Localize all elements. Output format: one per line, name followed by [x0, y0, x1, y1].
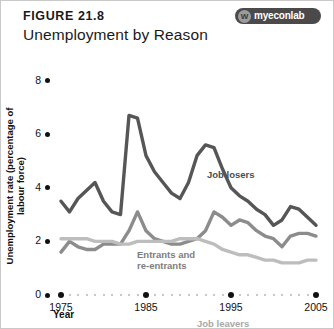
- myeconlab-badge-label: myeconlab: [254, 11, 304, 21]
- series-line-entrants-and-re-entrants: [61, 212, 316, 252]
- series-label-line: re-entrants: [137, 260, 195, 271]
- series-line-job-losers: [61, 115, 316, 225]
- series-label-job-leavers: Job leavers: [197, 318, 249, 329]
- figure-number: FIGURE 21.8: [23, 9, 105, 23]
- myeconlab-logo-icon: W: [238, 10, 251, 23]
- series-label-entrants-and-re-entrants: Entrants andre-entrants: [137, 249, 195, 271]
- series-label-job-losers: Job losers: [207, 169, 255, 180]
- chart-plot-area: Unemployment rate (percentage of labour …: [1, 57, 334, 329]
- figure-header: FIGURE 21.8 Unemployment by Reason W mye…: [1, 1, 334, 57]
- series-label-line: Entrants and: [137, 249, 195, 260]
- figure-panel: FIGURE 21.8 Unemployment by Reason W mye…: [0, 0, 334, 329]
- chart-series-lines: [1, 57, 334, 329]
- figure-title: Unemployment by Reason: [23, 26, 208, 44]
- myeconlab-badge[interactable]: W myeconlab: [235, 8, 321, 24]
